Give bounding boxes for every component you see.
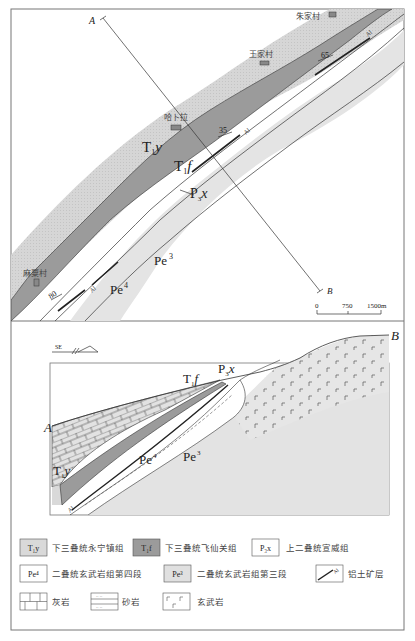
map-point-b: B: [327, 286, 333, 296]
dip-65: 65: [321, 51, 329, 60]
svg-text:P₃x: P₃x: [260, 544, 271, 553]
section-end-b: B: [391, 328, 399, 343]
legend-label-limestone: 灰岩: [52, 597, 70, 607]
legend-label-pe4: 二叠统玄武岩组第四段: [52, 569, 142, 579]
geologic-figure: A B 朱家村 王家村 哈卜拉 麻粟村 65 35 80 Al Al Al T1…: [0, 0, 415, 641]
legend-label-sandstone: 砂岩: [122, 597, 140, 607]
legend-label-p3x: 上二叠统宣威组: [286, 543, 349, 553]
svg-text:1500m: 1500m: [367, 302, 387, 310]
svg-text:750: 750: [342, 302, 353, 310]
svg-text:T₁y: T₁y: [28, 544, 40, 553]
legend-label-t1f: 下三叠统飞仙关组: [165, 543, 237, 553]
village-zhujiacun: 朱家村: [296, 11, 320, 21]
section-orientation: SE: [55, 344, 62, 350]
village-wangjiacun: 王家村: [249, 49, 273, 59]
legend-label-bauxite: 铝土矿层: [348, 569, 384, 579]
svg-text:Pe³: Pe³: [172, 570, 183, 579]
legend-swatch-sandstone: .. .. .. ..: [91, 593, 118, 610]
svg-text:T₁f: T₁f: [141, 544, 152, 553]
map-point-a: A: [88, 15, 96, 26]
section-end-a: A: [43, 420, 52, 435]
legend-label-t1y: 下三叠统永宁镇组: [52, 543, 124, 553]
legend-label-pe3: 二叠统玄武岩组第三段: [197, 569, 287, 579]
svg-text:.. ..: .. ..: [96, 604, 102, 609]
svg-text:0: 0: [315, 302, 319, 310]
village-habula: 哈卜拉: [164, 112, 188, 122]
svg-text:.. ..: .. ..: [96, 593, 102, 598]
legend-swatch-limestone: [20, 593, 47, 610]
legend-swatch-basalt: [163, 593, 190, 610]
svg-text:Pe⁴: Pe⁴: [28, 570, 39, 579]
legend-label-basalt: 玄武岩: [197, 597, 224, 607]
village-masucun: 麻粟村: [23, 268, 47, 278]
dip-35: 35: [219, 126, 227, 135]
